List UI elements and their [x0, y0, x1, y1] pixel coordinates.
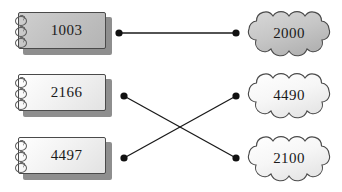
node-notepad-4497[interactable]: 4497: [18, 137, 112, 180]
node-notepad-1003[interactable]: 1003: [18, 12, 112, 55]
node-label: 2100: [243, 134, 335, 182]
edge-line: [124, 96, 236, 158]
node-label: 2166: [18, 74, 106, 111]
connector-dot: [232, 154, 239, 161]
diagram-canvas: 1003 2166 4497 2000: [0, 0, 342, 192]
node-notepad-2166[interactable]: 2166: [18, 74, 112, 117]
connector-dot: [232, 29, 239, 36]
edge-line: [124, 96, 236, 158]
node-label: 4490: [243, 71, 335, 119]
node-cloud-4490[interactable]: 4490: [243, 71, 335, 119]
connector-dot: [120, 154, 127, 161]
node-cloud-2000[interactable]: 2000: [243, 9, 335, 57]
connector-dot: [232, 92, 239, 99]
node-label: 1003: [18, 12, 106, 49]
node-label: 4497: [18, 137, 106, 174]
node-label: 2000: [243, 9, 335, 57]
connector-dot: [120, 92, 127, 99]
node-cloud-2100[interactable]: 2100: [243, 134, 335, 182]
connector-dot: [115, 29, 122, 36]
